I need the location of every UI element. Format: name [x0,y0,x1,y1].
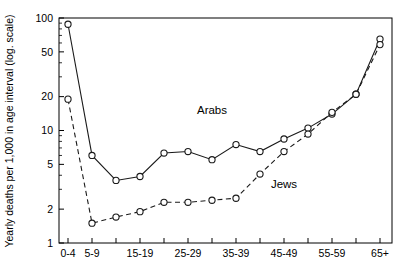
data-point [65,96,71,102]
data-point [305,131,311,137]
data-point [233,195,239,201]
data-point [209,157,215,163]
y-tick-label: 1 [47,237,53,249]
data-point [209,197,215,203]
data-point [137,209,143,215]
y-tick-label: 20 [41,90,53,102]
data-point [161,199,167,205]
data-point [353,91,359,97]
x-tick-label: 65+ [371,247,389,259]
data-point [305,125,311,131]
data-point [281,148,287,154]
data-point [185,148,191,154]
data-point [329,109,335,115]
data-point [65,21,71,27]
x-tick-label: 55-59 [319,247,346,259]
data-point [113,214,119,220]
y-tick-label: 100 [35,12,53,24]
y-axis-title: Yearly deaths per 1,000 in age interval … [3,14,15,247]
series-label-arabs: Arabs [197,104,227,116]
y-tick-label: 2 [47,203,53,215]
data-point [233,141,239,147]
x-tick-label: 5-9 [84,247,99,259]
x-tick-label: 45-49 [271,247,298,259]
data-point [281,136,287,142]
data-point [89,152,95,158]
data-point [257,171,263,177]
y-tick-label: 5 [47,158,53,170]
data-point [257,148,263,154]
data-point [377,42,383,48]
data-point [137,173,143,179]
data-point [185,199,191,205]
y-tick-label: 50 [41,46,53,58]
x-tick-label: 15-19 [127,247,154,259]
data-point [161,150,167,156]
data-point [113,177,119,183]
series-label-jews: Jews [271,178,297,190]
data-point [89,220,95,226]
x-tick-label: 35-39 [223,247,250,259]
line-chart: 125102050100 0-45-915-1925-2935-3945-495… [0,0,408,270]
chart-background [0,0,408,270]
x-tick-label: 25-29 [175,247,202,259]
chart-container: 125102050100 0-45-915-1925-2935-3945-495… [0,0,408,270]
y-tick-label: 10 [41,124,53,136]
x-tick-label: 0-4 [60,247,75,259]
